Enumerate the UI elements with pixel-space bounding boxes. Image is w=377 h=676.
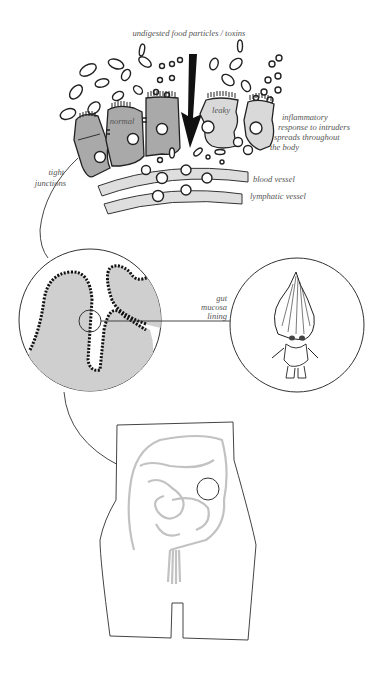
label-inflammatory-line1: inflammatory — [282, 112, 328, 122]
label-normal: normal — [110, 116, 135, 126]
troll-circle — [230, 258, 364, 392]
leaky-cells: leaky — [200, 91, 274, 155]
label-inflammatory-line4: the body — [270, 142, 299, 152]
label-inflammatory-line3: spreads throughout — [274, 132, 340, 142]
label-gut-line3: lining — [207, 311, 227, 321]
lymphatic-vessel — [104, 191, 242, 214]
arrow-icon — [181, 54, 202, 148]
label-food-particles: undigested food particles / toxins — [133, 28, 247, 38]
body-outline — [100, 422, 256, 640]
normal-cells: normal — [74, 91, 180, 177]
label-inflammatory-line2: response to intruders — [278, 122, 351, 132]
label-lymphatic-vessel: lymphatic vessel — [250, 191, 307, 201]
label-tight-junctions-line2: junctions — [34, 178, 67, 188]
label-leaky: leaky — [212, 105, 230, 115]
mucosa-circle — [19, 249, 170, 400]
label-blood-vessel: blood vessel — [253, 174, 295, 184]
leaky-gut-illustration: undigested food particles / toxins — [0, 0, 377, 676]
